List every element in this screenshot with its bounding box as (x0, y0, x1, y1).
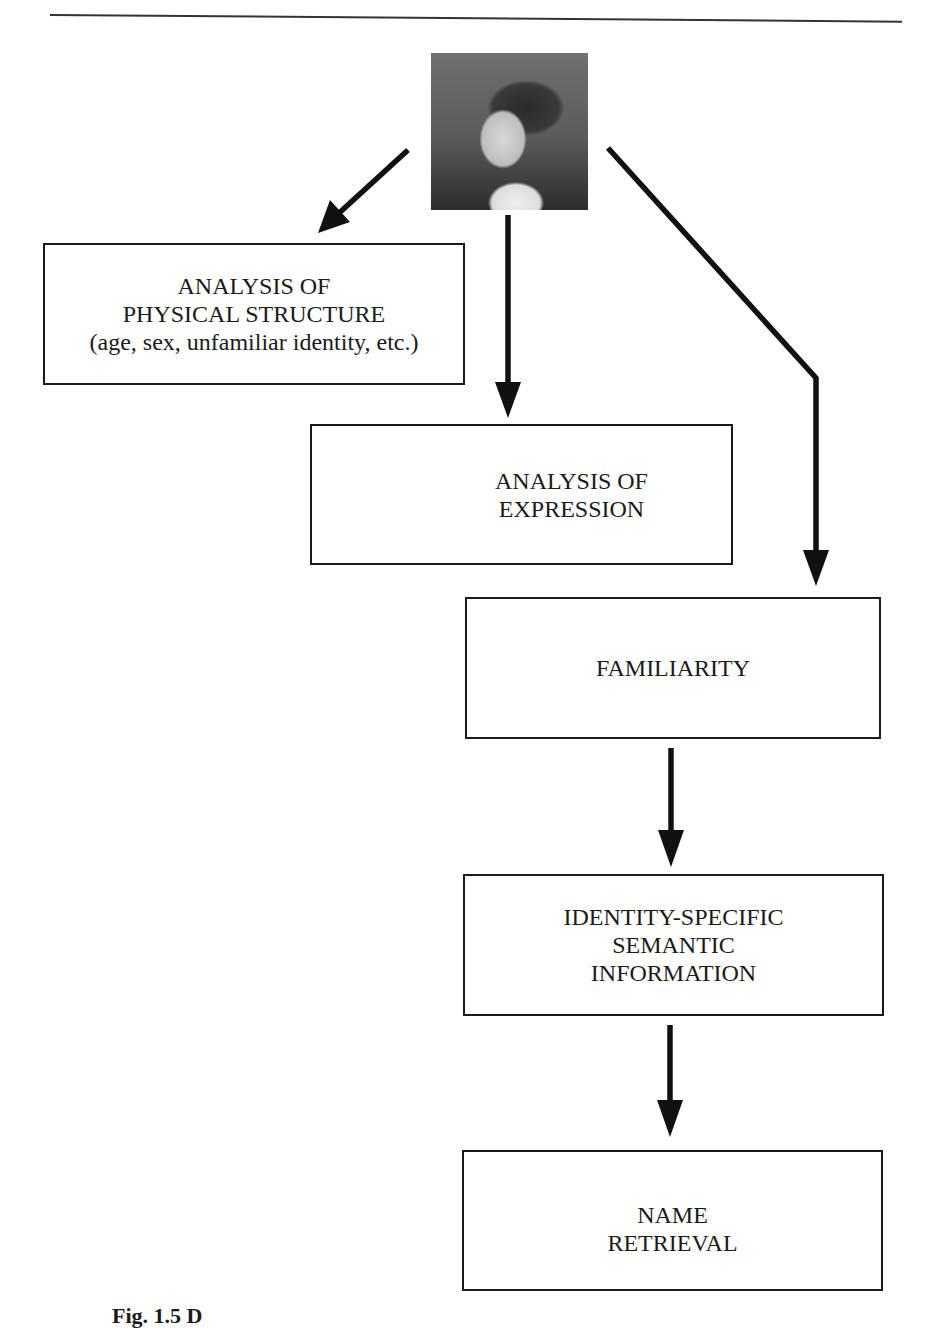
box-name-retrieval: NAME RETRIEVAL (462, 1150, 883, 1291)
box-line: INFORMATION (591, 959, 756, 987)
arrowhead-expression (495, 382, 521, 418)
box-line: FAMILIARITY (596, 654, 750, 682)
box-line: (age, sex, unfamiliar identity, etc.) (90, 328, 419, 356)
box-line: PHYSICAL STRUCTURE (123, 300, 385, 328)
arrowhead-familiarity (803, 550, 829, 586)
box-familiarity: FAMILIARITY (465, 597, 881, 739)
box-line: SEMANTIC (612, 931, 735, 959)
box-line: RETRIEVAL (607, 1229, 737, 1257)
box-expression: ANALYSIS OF EXPRESSION (310, 424, 733, 565)
box-line: ANALYSIS OF (178, 272, 331, 300)
box-line: NAME (637, 1185, 708, 1229)
box-line: ANALYSIS OF (395, 467, 648, 495)
arrowhead-name (657, 1100, 683, 1137)
figure-caption: Fig. 1.5 D (112, 1303, 202, 1329)
arrowhead-semantic (658, 830, 684, 867)
box-semantic-information: IDENTITY-SPECIFIC SEMANTIC INFORMATION (463, 874, 884, 1016)
arrow-to-physical (338, 150, 408, 214)
box-line: EXPRESSION (399, 495, 644, 523)
box-line: IDENTITY-SPECIFIC (564, 903, 784, 931)
box-physical-structure: ANALYSIS OF PHYSICAL STRUCTURE (age, sex… (43, 243, 465, 385)
